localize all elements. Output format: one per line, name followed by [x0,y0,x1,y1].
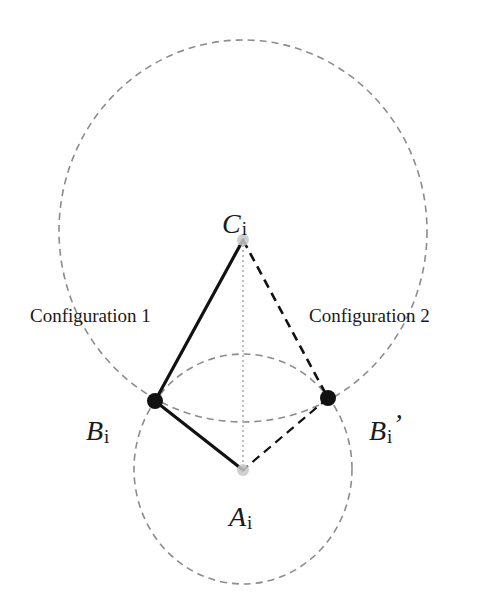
label-configuration-2: Configuration 2 [309,305,430,326]
label-C: Ci [222,208,247,239]
point-A-marker [237,464,249,476]
label-B-prime: Bi’ [369,408,402,447]
point-B-joint [147,393,163,409]
point-Bprime-joint [320,390,336,406]
label-configuration-1: Configuration 1 [30,305,151,326]
link-C-B-config1 [155,240,243,401]
link-Bprime-A-config2 [243,398,328,470]
label-B: Bi [86,415,109,447]
kinematic-diagram: Configuration 1 Configuration 2 Ci Bi Bi… [0,0,485,613]
label-A: Ai [227,501,252,533]
link-B-A-config1 [155,401,243,470]
